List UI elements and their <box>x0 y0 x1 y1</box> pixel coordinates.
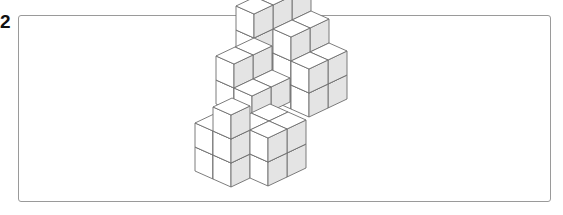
cube-stack-figure <box>0 0 563 215</box>
